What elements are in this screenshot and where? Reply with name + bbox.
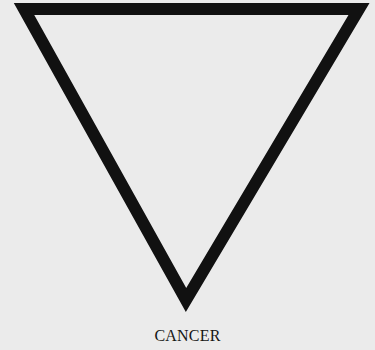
symbol-canvas [0, 0, 375, 350]
symbol-caption: CANCER [0, 327, 375, 345]
inverted-triangle-icon [24, 9, 359, 300]
